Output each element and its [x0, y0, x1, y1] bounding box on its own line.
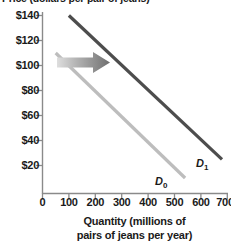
curve-label-d1-subscript: 1: [204, 163, 208, 172]
y-tick-label-40: $40: [1, 135, 39, 146]
demand-curve-d0: [56, 53, 185, 178]
x-axis-tick-labels: 0 100 200 300 400 500 600 700: [0, 196, 231, 212]
x-axis-title-line-2: pairs of jeans per year): [38, 228, 231, 242]
y-tick-label-140: $140: [1, 10, 39, 21]
y-tick-label-80: $80: [1, 85, 39, 96]
curve-label-d0-subscript: 0: [163, 181, 167, 190]
curve-label-d0-text: D: [155, 175, 163, 187]
y-tick-label-120: $120: [1, 35, 39, 46]
curve-label-d0: D0: [155, 176, 167, 191]
x-axis-title-line-1: Quantity (millions of: [38, 214, 231, 228]
demand-shift-arrow: [57, 52, 110, 73]
curve-label-d1-text: D: [196, 157, 204, 169]
x-tick-label-700: 700: [208, 196, 231, 209]
curve-label-d1: D1: [196, 158, 208, 173]
chart-figure: Price (dollars per pair of jeans): [0, 0, 231, 252]
y-tick-label-20: $20: [1, 160, 39, 171]
x-axis-title: Quantity (millions of pairs of jeans per…: [38, 214, 231, 242]
y-axis-tick-labels: $140 $120 $100 $80 $60 $40 $20: [0, 0, 39, 200]
y-tick-label-100: $100: [1, 60, 39, 71]
y-tick-label-60: $60: [1, 110, 39, 121]
